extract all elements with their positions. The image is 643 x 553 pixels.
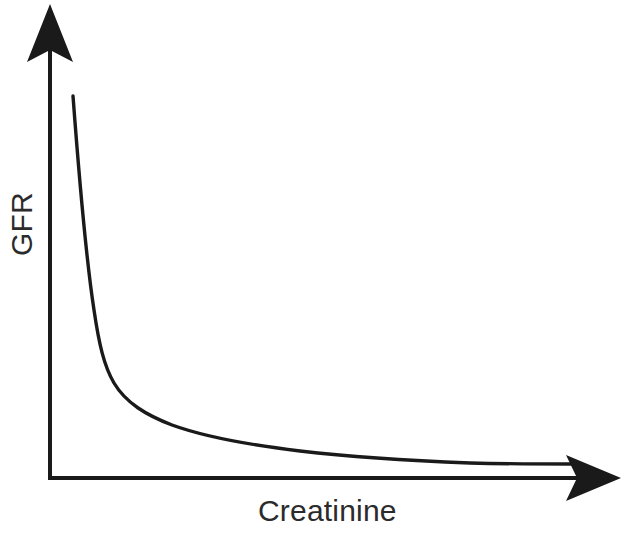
gfr-creatinine-curve (73, 96, 572, 464)
figure-root: Creatinine GFR (0, 0, 643, 553)
y-axis-label: GFR (5, 192, 38, 256)
chart-canvas: Creatinine GFR (0, 0, 643, 553)
x-axis-label: Creatinine (258, 494, 397, 527)
